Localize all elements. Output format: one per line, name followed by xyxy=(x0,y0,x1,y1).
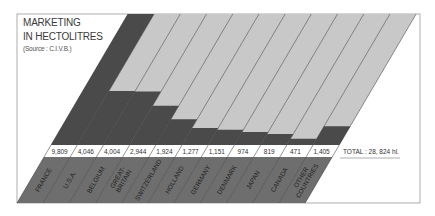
value-label: 4,004 xyxy=(104,148,121,155)
value-label: 4,046 xyxy=(78,148,95,155)
bar-value xyxy=(287,139,317,145)
value-label: 974 xyxy=(238,148,249,155)
value-label: 2,944 xyxy=(130,148,147,155)
slanted-bar-chart: 9,809FRANCE4,046U.S.A.4,004BELGIUM2,944G… xyxy=(0,0,435,216)
value-label: 471 xyxy=(290,148,301,155)
value-label: 1,151 xyxy=(209,148,226,155)
value-label: 1,924 xyxy=(156,148,173,155)
value-label: 1,405 xyxy=(313,148,330,155)
value-label: 1,277 xyxy=(182,148,199,155)
value-label: 819 xyxy=(264,148,275,155)
total-label: TOTAL : 28, 824 hl. xyxy=(343,148,399,155)
value-label: 9,809 xyxy=(51,148,68,155)
